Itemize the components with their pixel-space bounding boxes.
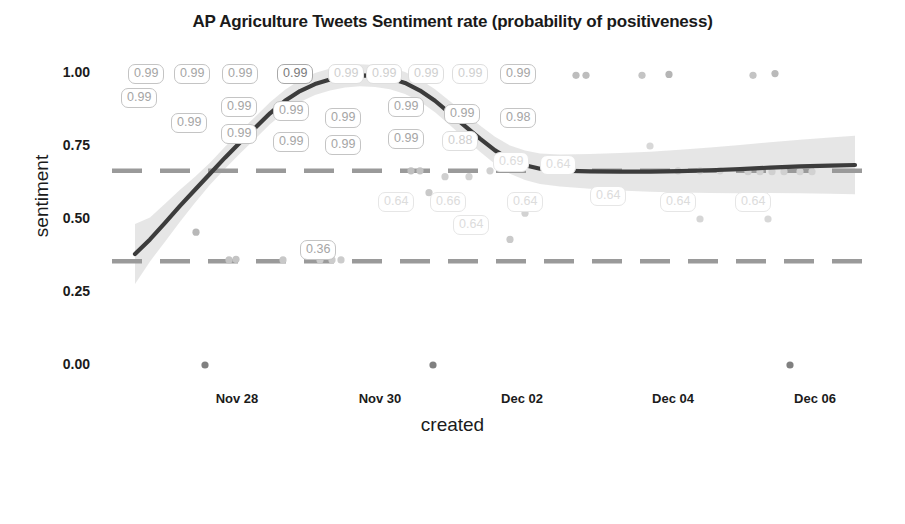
scatter-point [486, 167, 493, 174]
scatter-point [749, 72, 756, 79]
scatter-point [407, 167, 414, 174]
chart-container: AP Agriculture Tweets Sentiment rate (pr… [0, 0, 905, 524]
scatter-point [796, 168, 803, 175]
data-point-label: 0.99 [221, 97, 257, 117]
scatter-point [638, 72, 645, 79]
data-point-label: 0.64 [660, 192, 696, 212]
data-point-label: 0.64 [453, 215, 489, 235]
data-point-label: 0.99 [128, 64, 164, 84]
data-point-label: 0.99 [325, 135, 361, 155]
data-point-label: 0.99 [328, 64, 364, 84]
scatter-point [808, 168, 815, 175]
legend: sentiment 00.20.50.81 [0, 448, 905, 508]
data-point-label: 0.99 [452, 64, 488, 84]
scatter-point [582, 72, 589, 79]
data-point-label: 0.99 [500, 64, 536, 84]
data-point-label: 0.99 [121, 88, 157, 108]
data-point-label: 0.99 [277, 64, 313, 84]
data-point-label: 0.99 [171, 113, 207, 133]
scatter-point [665, 71, 672, 78]
data-point-label: 0.99 [222, 64, 258, 84]
data-point-label: 0.99 [174, 64, 210, 84]
scatter-point [506, 236, 513, 243]
data-point-label: 0.99 [221, 124, 257, 144]
scatter-point [279, 256, 286, 263]
data-point-label: 0.99 [273, 132, 309, 152]
data-point-label: 0.99 [388, 129, 424, 149]
data-point-label: 0.36 [300, 240, 336, 260]
data-point-label: 0.69 [493, 152, 529, 172]
data-point-label: 0.64 [378, 192, 414, 212]
scatter-point [771, 70, 778, 77]
data-point-label: 0.99 [273, 101, 309, 121]
data-point-label: 0.99 [444, 104, 480, 124]
data-point-label: 0.64 [735, 192, 771, 212]
data-point-label: 0.66 [430, 192, 466, 212]
scatter-point [225, 256, 232, 263]
scatter-point [201, 361, 208, 368]
scatter-point [232, 256, 239, 263]
scatter-point [572, 72, 579, 79]
data-point-label: 0.64 [590, 186, 626, 206]
data-point-label: 0.64 [507, 192, 543, 212]
data-point-label: 0.98 [500, 108, 536, 128]
data-point-label: 0.64 [540, 155, 576, 175]
scatter-point [646, 142, 653, 149]
scatter-point [429, 361, 436, 368]
data-point-label: 0.99 [388, 97, 424, 117]
scatter-point [696, 215, 703, 222]
data-point-label: 0.99 [325, 108, 361, 128]
scatter-point [192, 229, 199, 236]
data-point-label: 0.99 [366, 64, 402, 84]
scatter-point [764, 215, 771, 222]
data-point-label: 0.99 [408, 64, 444, 84]
scatter-point [441, 173, 448, 180]
scatter-point [337, 256, 344, 263]
scatter-point [786, 361, 793, 368]
data-point-label: 0.88 [442, 131, 478, 151]
scatter-point [465, 173, 472, 180]
scatter-point [416, 167, 423, 174]
